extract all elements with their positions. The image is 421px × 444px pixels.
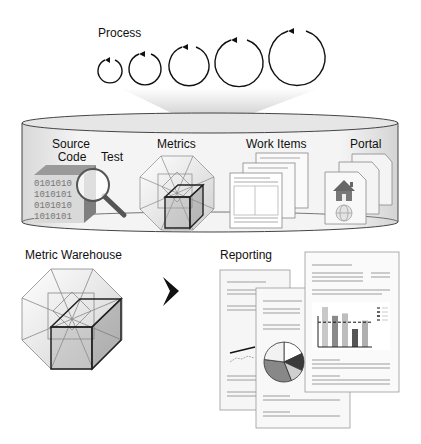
- process-cycles: [98, 28, 325, 87]
- reporting-label: Reporting: [220, 249, 272, 262]
- binary-row: 0101010: [34, 179, 72, 189]
- source-code-label: Source Code: [52, 138, 90, 164]
- binary-row: 0101010: [34, 201, 72, 211]
- bar: [332, 316, 338, 347]
- bar: [352, 329, 358, 347]
- globe-icon: [336, 205, 352, 221]
- work-items-label: Work Items: [246, 138, 306, 151]
- metrics-label: Metrics: [157, 138, 196, 151]
- bar: [342, 313, 348, 347]
- metrics-hypercube-icon: [140, 156, 214, 230]
- metric-warehouse-hypercube-icon: [22, 269, 122, 369]
- cycle-icon: [269, 28, 325, 86]
- cycle-icon: [129, 51, 161, 85]
- cycle-icon: [98, 57, 122, 83]
- binary-row: 1010101: [34, 212, 72, 222]
- reporting-documents: [220, 252, 399, 428]
- portal-label: Portal: [350, 138, 381, 151]
- cycle-icon: [169, 44, 209, 86]
- cycle-icon: [215, 37, 263, 87]
- bar: [322, 307, 328, 347]
- chevron-right-icon: [163, 277, 179, 306]
- metric-warehouse-label: Metric Warehouse: [25, 249, 122, 262]
- pie-chart: [264, 342, 304, 382]
- test-label: Test: [101, 151, 123, 164]
- bar: [362, 321, 368, 347]
- binary-row: 1010101: [34, 190, 72, 200]
- diagram-canvas: 0101010 1010101 0101010 1010101: [0, 0, 421, 444]
- source-code-label-line2: Code: [52, 151, 90, 164]
